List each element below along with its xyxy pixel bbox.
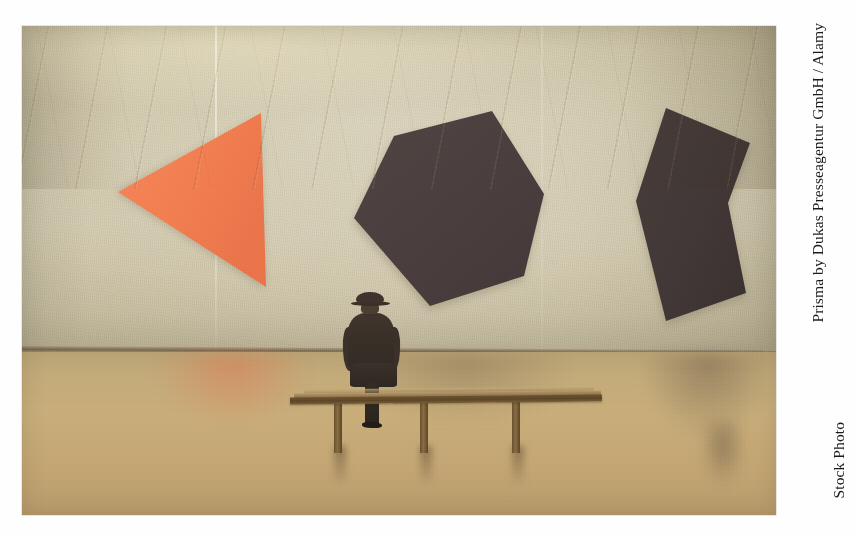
credit-block: Prisma by Dukas Presseagentur GmbH / Ala… [779, 20, 851, 520]
floor-sheen [22, 26, 776, 189]
bench-leg [512, 401, 520, 453]
image-canvas: Prisma by Dukas Presseagentur GmbH / Ala… [0, 0, 854, 537]
visitor-shoe [362, 422, 382, 428]
visitor-hat [356, 292, 384, 303]
credit-line-2: Stock Photo [831, 422, 847, 498]
visitor-torso [348, 313, 394, 369]
bench-leg [420, 401, 428, 453]
credit-line-1: Prisma by Dukas Presseagentur GmbH / Ala… [810, 23, 826, 323]
blurred-figure-reflection [694, 420, 752, 506]
bench-leg [334, 401, 342, 453]
orange-wedge-reflection [142, 354, 307, 470]
photograph [22, 26, 776, 515]
